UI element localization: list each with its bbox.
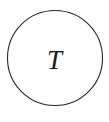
figure-canvas: T [0,0,109,122]
circle-outline-shape[interactable] [8,11,103,106]
node-circle-graphic [0,0,109,122]
